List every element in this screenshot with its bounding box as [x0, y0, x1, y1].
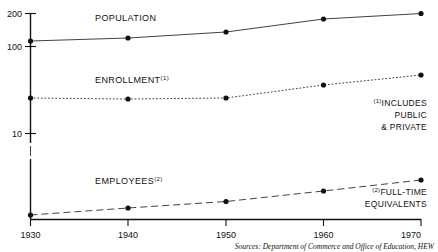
- x-tick-label-1930: 1930: [20, 230, 40, 240]
- annotation-2-line-1: (2)FULL-TIME: [372, 187, 427, 197]
- data-point: [28, 95, 33, 100]
- x-tick-label-1960: 1960: [313, 230, 333, 240]
- data-point: [321, 188, 326, 193]
- series-line-enrollment: [31, 75, 422, 99]
- data-point: [223, 29, 228, 34]
- x-tick-1940: 1940: [118, 219, 138, 240]
- chart-figure: 200 100 10 1930 1940 1950 1960 19: [0, 0, 438, 252]
- series-line-employees: [31, 180, 422, 215]
- x-tick-label-1950: 1950: [216, 230, 236, 240]
- series-label-employees-text: EMPLOYEES: [95, 176, 154, 186]
- y-tick-200: 200: [7, 9, 36, 19]
- data-point: [418, 11, 423, 16]
- annotation-1-text-1: INCLUDES: [382, 98, 427, 108]
- annotation-full-time-equivalents: (2)FULL-TIME EQUIVALENTS: [365, 187, 427, 209]
- series-label-population-text: POPULATION: [95, 13, 156, 23]
- annotation-includes-public-private: (1)INCLUDES PUBLIC & PRIVATE: [373, 98, 427, 132]
- data-point: [223, 95, 228, 100]
- data-point: [28, 212, 33, 217]
- y-tick-label-100: 100: [7, 42, 22, 52]
- data-point: [321, 82, 326, 87]
- data-point: [321, 16, 326, 21]
- series-employees: EMPLOYEES(2): [28, 176, 424, 218]
- data-point: [418, 72, 423, 77]
- y-tick-label-10: 10: [12, 129, 22, 139]
- data-point: [125, 35, 130, 40]
- series-label-employees: EMPLOYEES(2): [95, 176, 163, 186]
- annotation-2-text-1: FULL-TIME: [380, 187, 427, 197]
- data-point: [418, 177, 423, 182]
- x-tick-1950: 1950: [216, 219, 236, 240]
- x-tick-1970: 1970: [401, 219, 421, 240]
- annotation-2-marker: (2): [372, 187, 380, 193]
- source-note: Sources: Department of Commerce and Offi…: [235, 242, 435, 251]
- x-tick-1960: 1960: [313, 219, 333, 240]
- data-point: [125, 205, 130, 210]
- series-enrollment: ENROLLMENT(1): [28, 72, 424, 101]
- x-tick-1930: 1930: [20, 219, 40, 240]
- annotation-2-line-2: EQUIVALENTS: [365, 199, 427, 209]
- x-tick-label-1970: 1970: [401, 230, 421, 240]
- data-point: [28, 38, 33, 43]
- annotation-1-line-1: (1)INCLUDES: [373, 98, 427, 108]
- annotation-1-marker: (1): [373, 98, 381, 104]
- series-population: POPULATION: [28, 11, 424, 44]
- series-label-population: POPULATION: [95, 13, 156, 23]
- series-label-employees-note: (2): [154, 176, 163, 182]
- y-tick-10: 10: [12, 129, 36, 139]
- data-point: [223, 199, 228, 204]
- x-tick-label-1940: 1940: [118, 230, 138, 240]
- y-tick-label-200: 200: [7, 9, 22, 19]
- annotation-1-line-3: & PRIVATE: [381, 122, 427, 132]
- series-label-enrollment: ENROLLMENT(1): [95, 75, 169, 85]
- data-point: [125, 96, 130, 101]
- series-line-population: [31, 14, 422, 42]
- annotation-1-line-2: PUBLIC: [394, 110, 427, 120]
- series-label-enrollment-text: ENROLLMENT: [95, 75, 161, 85]
- series-label-enrollment-note: (1): [161, 75, 170, 81]
